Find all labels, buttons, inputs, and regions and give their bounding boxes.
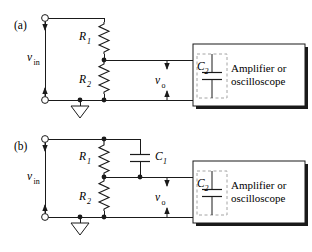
ground-symbol-a [71, 100, 89, 118]
vin-label-b: v [27, 170, 33, 182]
instrument-line1-b: Amplifier or [231, 179, 287, 191]
circuit-diagram-svg: (a) [0, 0, 312, 252]
junction-dot-b-ground [78, 215, 83, 220]
vo-label-a: v [155, 74, 161, 86]
resistor-label-R1-a: R [78, 30, 86, 42]
panel-b-tag: (b) [14, 140, 28, 153]
vo-sublabel-a: o [162, 81, 166, 90]
vin-label-a: v [27, 51, 33, 63]
instrument-line1-a: Amplifier or [231, 62, 287, 74]
resistor-R1-a [99, 22, 109, 54]
input-terminal-top-b[interactable] [42, 136, 49, 143]
resistor-sublabel-R1-b: 1 [87, 157, 91, 166]
junction-dot-b-bottom [102, 215, 107, 220]
capacitor-sublabel-C2-b: 2 [205, 184, 209, 193]
panel-a: (a) [14, 15, 308, 118]
input-terminal-bottom-a[interactable] [42, 97, 49, 104]
resistor-R2-b [99, 177, 109, 211]
junction-dot-b-mid [102, 175, 107, 180]
junction-dot-b-c1 [138, 175, 143, 180]
figure-root: (a) [0, 0, 312, 252]
resistor-label-R2-b: R [78, 190, 86, 202]
capacitor-label-C1-b: C [155, 150, 163, 162]
panel-a-tag: (a) [14, 19, 27, 32]
junction-dot-b-top [102, 137, 107, 142]
panel-b: (b) C 1 [14, 136, 308, 235]
vo-label-b: v [155, 191, 161, 203]
capacitor-sublabel-C2-a: 2 [205, 67, 209, 76]
vo-sublabel-b: o [162, 198, 166, 207]
resistor-R2-a [99, 60, 109, 94]
resistor-label-R1-b: R [78, 150, 86, 162]
vin-sublabel-b: in [34, 177, 40, 186]
resistor-sublabel-R2-a: 2 [87, 80, 91, 89]
junction-dot-a-ground [78, 98, 83, 103]
junction-dot-a-bottom [102, 98, 107, 103]
input-terminal-top-a[interactable] [42, 15, 49, 22]
instrument-line2-b: oscilloscope [231, 192, 285, 204]
resistor-sublabel-R1-a: 1 [87, 37, 91, 46]
capacitor-sublabel-C1-b: 1 [163, 157, 167, 166]
resistor-sublabel-R2-b: 2 [87, 197, 91, 206]
resistor-R1-b [99, 139, 109, 177]
input-terminal-bottom-b[interactable] [42, 214, 49, 221]
ground-symbol-b [71, 217, 89, 235]
instrument-line2-a: oscilloscope [231, 75, 285, 87]
junction-dot-a-mid [102, 58, 107, 63]
vin-sublabel-a: in [34, 58, 40, 67]
wire-a-top [45, 18, 104, 22]
resistor-label-R2-a: R [78, 73, 86, 85]
